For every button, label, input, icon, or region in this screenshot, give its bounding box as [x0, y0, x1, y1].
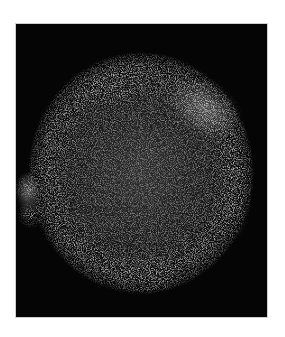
supernova-remnant-image	[16, 24, 267, 317]
remnant-image-frame	[15, 23, 268, 318]
remnant-emission	[16, 24, 267, 317]
